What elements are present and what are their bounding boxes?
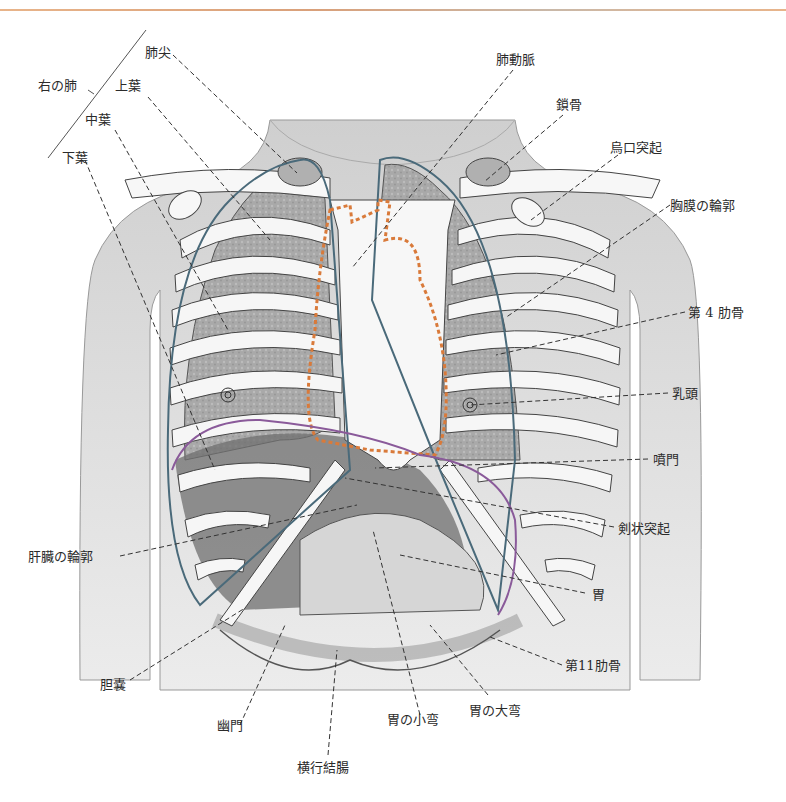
label-upper-lobe: 上葉 (115, 78, 141, 93)
label-pulmonary-artery: 肺動脈 (496, 52, 535, 67)
label-rib4: 第 4 肋骨 (688, 305, 744, 320)
label-nipple: 乳頭 (672, 386, 698, 401)
right-lung-bracket (48, 30, 146, 158)
label-liver-outline: 肝臓の輪郭 (28, 549, 93, 564)
label-greater-curvature: 胃の大弯 (469, 703, 521, 718)
label-transverse-colon: 横行結腸 (297, 760, 349, 775)
label-clavicle: 鎖骨 (556, 97, 582, 112)
label-gallbladder: 胆嚢 (100, 677, 126, 692)
label-lesser-curvature: 胃の小弯 (387, 712, 439, 727)
label-middle-lobe: 中葉 (85, 112, 111, 127)
label-xiphoid: 剣状突起 (618, 521, 670, 536)
label-pleura-outline: 胸膜の輪郭 (670, 198, 735, 213)
label-pylorus: 幽門 (217, 718, 243, 733)
label-coracoid: 烏口突起 (610, 140, 662, 155)
label-stomach: 胃 (592, 587, 605, 602)
label-lower-lobe: 下葉 (62, 150, 88, 165)
label-rib11: 第11肋骨 (565, 658, 621, 673)
label-apex: 肺尖 (145, 45, 171, 60)
sternum (330, 200, 455, 470)
label-right-lung: 右の肺 (38, 78, 77, 93)
label-cardia: 噴門 (653, 452, 679, 467)
